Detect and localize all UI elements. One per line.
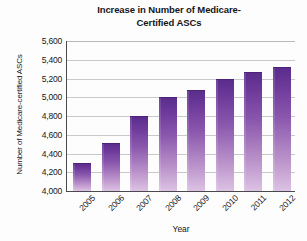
bar-chart: Increase in Number of Medicare- Certifie…: [0, 0, 307, 241]
y-axis-tick-labels: 5,6005,4005,2005,0004,8004,6004,4004,200…: [18, 0, 62, 241]
bar: [159, 97, 177, 191]
y-axis-tick-label: 5,000: [22, 93, 62, 102]
bar: [73, 163, 91, 191]
x-axis-tick-label: 2009: [180, 193, 211, 224]
bar: [244, 72, 262, 191]
y-axis-tick-label: 4,800: [22, 112, 62, 121]
y-axis-tick-label: 5,200: [22, 75, 62, 84]
x-axis-tick-label: 2012: [266, 193, 297, 224]
x-axis-tick-label: 2011: [237, 193, 268, 224]
chart-title-line-1: Increase in Number of Medicare-: [97, 4, 241, 15]
y-axis-tick-label: 4,000: [22, 187, 62, 196]
plot-area: [67, 41, 295, 191]
y-axis-tick-label: 5,400: [22, 56, 62, 65]
bar: [273, 67, 291, 191]
x-axis-tick-labels: 20052006200720082009201020112012: [67, 193, 295, 223]
chart-title: Increase in Number of Medicare- Certifie…: [44, 4, 294, 29]
gridline: [67, 41, 295, 42]
x-axis-tick-label: 2007: [123, 193, 154, 224]
x-axis-tick-label: 2010: [209, 193, 240, 224]
y-axis-tick-label: 4,600: [22, 131, 62, 140]
y-axis-line: [66, 41, 67, 192]
chart-title-line-2: Certified ASCs: [137, 17, 202, 28]
x-axis-tick-label: 2006: [95, 193, 126, 224]
bar: [216, 79, 234, 192]
bar: [102, 143, 120, 191]
y-axis-tick-label: 4,200: [22, 168, 62, 177]
x-axis-tick-label: 2005: [66, 193, 97, 224]
gridline: [67, 60, 295, 61]
x-axis-title: Year: [67, 224, 295, 234]
x-axis-tick-label: 2008: [152, 193, 183, 224]
y-axis-tick-label: 4,400: [22, 150, 62, 159]
y-axis-tick-label: 5,600: [22, 37, 62, 46]
bar: [187, 90, 205, 191]
bar: [130, 116, 148, 191]
